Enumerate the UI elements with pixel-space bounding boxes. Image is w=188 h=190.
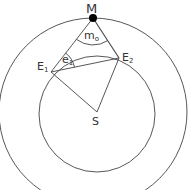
label-m0-main: m — [84, 29, 95, 42]
label-E1-sub: 1 — [44, 66, 48, 74]
label-S: S — [92, 115, 99, 128]
label-E2-sub: 2 — [129, 57, 133, 65]
label-m0: mo — [84, 29, 99, 43]
label-m0-sub: o — [95, 35, 99, 43]
diagram-canvas: M mo e1 E1 E2 S — [0, 0, 188, 190]
segment-E2-S — [97, 58, 119, 112]
label-M: M — [86, 1, 97, 16]
label-E1-main: E — [37, 60, 44, 73]
label-e1: e1 — [62, 53, 73, 67]
segment-E1-S — [51, 72, 97, 112]
label-E2-main: E — [122, 51, 129, 64]
label-e1-sub: 1 — [69, 59, 73, 67]
inner-circle — [39, 56, 155, 172]
outer-circle — [0, 18, 187, 190]
label-E1: E1 — [37, 60, 48, 74]
label-E2: E2 — [122, 51, 133, 65]
